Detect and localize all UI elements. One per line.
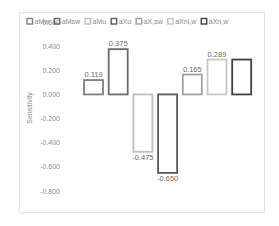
bar-ax-sw xyxy=(183,75,202,95)
data-labels: 0.1190.375-0.475-0.6500.1650.289 xyxy=(84,39,226,183)
legend-label: aX,sw xyxy=(144,18,164,25)
bar-amsw xyxy=(109,49,128,94)
bar-axn-w xyxy=(232,60,251,95)
y-tick-label: 0.200 xyxy=(42,67,60,74)
data-label: 0.165 xyxy=(183,65,202,74)
y-tick-label: -0.800 xyxy=(40,188,60,195)
legend-swatch xyxy=(111,19,117,25)
y-axis-ticks: 0.6000.4000.2000.000-0.200-0.400-0.600-0… xyxy=(40,19,60,195)
legend-item: aXn,w xyxy=(201,18,229,25)
bars xyxy=(84,49,251,173)
bar-axu xyxy=(158,94,177,172)
y-axis-title: Sensitivity xyxy=(26,92,34,124)
y-tick-label: 0.000 xyxy=(42,91,60,98)
y-tick-label: 0.400 xyxy=(42,43,60,50)
data-label: 0.289 xyxy=(208,50,227,59)
legend-label: aXu xyxy=(119,18,132,25)
bar-amw xyxy=(84,80,103,94)
legend-swatch xyxy=(85,19,91,25)
legend-item: aMu xyxy=(85,18,106,25)
legend-item: aXu xyxy=(111,18,131,25)
legend-swatch xyxy=(201,19,207,25)
data-label: 0.119 xyxy=(84,70,102,79)
y-tick-label: -0.200 xyxy=(40,115,60,122)
bar-axnl-w xyxy=(208,60,227,95)
legend-item: aMw xyxy=(27,18,50,25)
legend-label: aMw xyxy=(35,18,51,25)
legend-label: aMu xyxy=(93,18,107,25)
legend-item: aXnl,w xyxy=(168,18,197,25)
bar-chart: 0.6000.4000.2000.000-0.200-0.400-0.600-0… xyxy=(0,0,279,226)
y-tick-label: -0.600 xyxy=(40,163,60,170)
bar-amu xyxy=(133,94,152,151)
data-label: -0.475 xyxy=(132,153,153,162)
data-label: 0.375 xyxy=(109,39,128,48)
legend-swatch xyxy=(27,19,33,25)
legend-item: aX,sw xyxy=(136,18,164,25)
legend-label: aMsw xyxy=(62,18,81,25)
legend-label: aXn,w xyxy=(209,18,229,25)
legend-swatch xyxy=(168,19,174,25)
y-tick-label: -0.400 xyxy=(40,139,60,146)
legend-swatch xyxy=(136,19,142,25)
legend-label: aXnl,w xyxy=(175,18,197,25)
data-label: -0.650 xyxy=(157,174,178,183)
